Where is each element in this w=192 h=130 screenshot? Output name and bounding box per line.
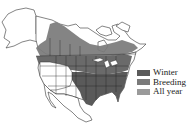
legend-label-winter: Winter [153,68,178,77]
range-map [0,0,192,130]
legend-label-all-year: All year [153,87,182,96]
map-legend: Winter Breeding All year [137,68,192,97]
legend-item-all-year: All year [137,87,192,96]
breeding-swatch [137,79,150,85]
all-year-swatch [137,89,150,95]
legend-item-winter: Winter [137,68,192,77]
winter-range [72,72,128,106]
winter-swatch [137,70,150,76]
